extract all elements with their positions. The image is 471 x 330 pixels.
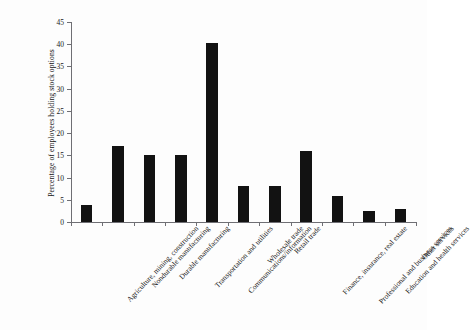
x-axis-line xyxy=(71,222,416,223)
bar xyxy=(363,211,375,222)
y-axis-tick-label: 40 xyxy=(57,40,65,49)
bar xyxy=(206,43,218,222)
y-axis-tick-label: 35 xyxy=(57,62,65,71)
bar xyxy=(112,146,124,222)
bar xyxy=(238,186,250,222)
bar xyxy=(332,196,344,222)
y-axis-tick-label: 20 xyxy=(57,129,65,138)
bar xyxy=(300,151,312,222)
bar-series xyxy=(71,22,416,222)
bar xyxy=(81,205,93,222)
bar xyxy=(144,155,156,222)
y-axis-tick-label: 10 xyxy=(57,173,65,182)
x-axis-tick xyxy=(416,222,417,226)
y-axis-tick-label: 30 xyxy=(57,84,65,93)
y-axis-tick-label: 25 xyxy=(57,106,65,115)
y-axis-tick-label: 45 xyxy=(57,18,65,27)
y-axis-tick-label: 0 xyxy=(60,218,64,227)
y-axis-title: Percentage of employees holding stock op… xyxy=(44,28,58,218)
clipped-header-text: · · · · · · · xyxy=(0,0,427,10)
x-axis-category-labels: Agriculture, mining, constructionNondura… xyxy=(71,224,416,328)
plot-area: 051015202530354045 xyxy=(71,22,416,222)
bar xyxy=(269,186,281,222)
bar xyxy=(395,209,407,222)
y-axis-tick-label: 15 xyxy=(57,151,65,160)
y-axis-tick-label: 5 xyxy=(60,195,64,204)
bar xyxy=(175,155,187,222)
clipped-header-text-value: · · · · · · · xyxy=(6,0,42,3)
y-axis-title-label: Percentage of employees holding stock op… xyxy=(47,49,56,197)
